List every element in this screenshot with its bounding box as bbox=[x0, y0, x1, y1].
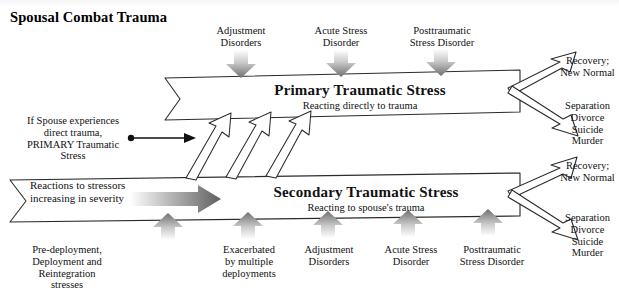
primary-banner-subtitle: Reacting directly to trauma bbox=[235, 100, 485, 112]
spouse-note-connector bbox=[128, 133, 196, 143]
bottom-stressor-label-adjustment-disorders: Adjustment Disorders bbox=[283, 244, 375, 268]
secondary-banner-subtitle: Reacting to spouse's trauma bbox=[235, 202, 497, 214]
secondary-outcome-negative-label: Separation Divorce Suicide Murder bbox=[556, 212, 619, 259]
secondary-banner-title: Secondary Traumatic Stress bbox=[235, 184, 497, 201]
bottom-stressor-label-acute-stress-disorder: Acute Stress Disorder bbox=[366, 244, 456, 268]
primary-outcome-positive-label: Recovery; New Normal bbox=[556, 55, 619, 79]
bottom-stressor-label-deployment-stresses: Pre-deployment, Deployment and Reintegra… bbox=[15, 244, 119, 291]
bottom-stressor-label-posttraumatic-stress-disorder: Posttraumatic Stress Disorder bbox=[444, 244, 540, 268]
top-stressor-label-acute-stress-disorder: Acute Stress Disorder bbox=[296, 25, 386, 49]
primary-banner-title: Primary Traumatic Stress bbox=[235, 82, 485, 99]
primary-outcome-negative-label: Separation Divorce Suicide Murder bbox=[556, 100, 619, 147]
severity-flow-label: Reactions to stressors increasing in sev… bbox=[30, 179, 180, 205]
bottom-stressor-label-exacerbated-deployments: Exacerbated by multiple deployments bbox=[203, 244, 295, 279]
top-stressor-label-adjustment-disorders: Adjustment Disorders bbox=[196, 25, 286, 49]
page-title: Spousal Combat Trauma bbox=[10, 9, 167, 26]
top-stressor-label-posttraumatic-stress-disorder: Posttraumatic Stress Disorder bbox=[394, 25, 490, 49]
secondary-outcome-positive-label: Recovery; New Normal bbox=[556, 160, 619, 184]
diagram-canvas: Spousal Combat Trauma Adjustment Disorde… bbox=[0, 0, 619, 298]
escalation-arrows bbox=[186, 111, 311, 180]
spouse-direct-trauma-note: If Spouse experiences direct trauma, PRI… bbox=[16, 115, 130, 162]
